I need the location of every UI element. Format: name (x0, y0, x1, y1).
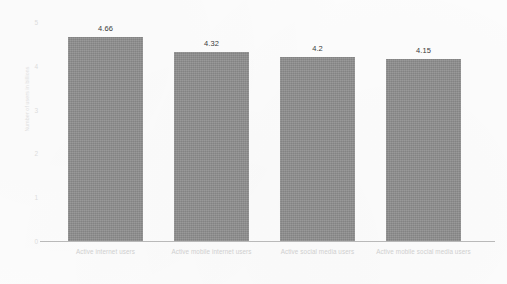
x-label-0: Active internet users (51, 247, 160, 256)
x-label-3: Active mobile social media users (369, 247, 478, 256)
bar-value-label-3: 4.15 (386, 46, 461, 55)
bar-1[interactable] (174, 52, 249, 241)
bar-0[interactable] (68, 37, 143, 241)
bar-group-3[interactable]: 4.15 (386, 22, 461, 241)
bar-chart: 5 4 3 2 1 0 Number of users in billions … (0, 0, 507, 284)
x-axis-line (40, 241, 495, 242)
x-axis-labels: Active internet users Active mobile inte… (45, 247, 490, 277)
bar-value-label-2: 4.2 (280, 44, 355, 53)
bar-value-label-0: 4.66 (68, 24, 143, 33)
y-tick-label-1: 1 (16, 194, 38, 201)
x-label-1: Active mobile internet users (157, 247, 266, 256)
bar-group-1[interactable]: 4.32 (174, 22, 249, 241)
y-axis-title: Number of users in billions (24, 44, 30, 154)
x-label-2: Active social media users (263, 247, 372, 256)
bar-group-2[interactable]: 4.2 (280, 22, 355, 241)
bar-group-0[interactable]: 4.66 (68, 22, 143, 241)
bar-3[interactable] (386, 59, 461, 241)
plot-area: 4.66 4.32 4.2 4.15 (45, 22, 490, 241)
bar-value-label-1: 4.32 (174, 39, 249, 48)
y-tick-label-0: 0 (16, 238, 38, 245)
bar-2[interactable] (280, 57, 355, 241)
y-tick-label-5: 5 (16, 19, 38, 26)
